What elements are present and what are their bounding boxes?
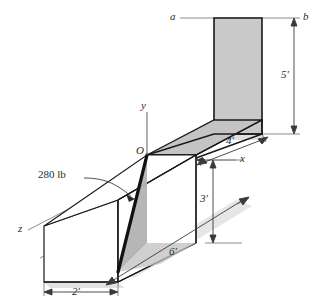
upright-panel [214,18,262,134]
dim-2ft-arrow-right [110,289,118,295]
label-dim-6ft: 6' [169,245,177,257]
label-axis-x: x [240,152,245,164]
dim-5ft-arrow-top [291,18,297,26]
label-dim-2ft: 2' [72,285,80,297]
label-force-280lb: 280 lb [38,168,66,180]
label-dim-5ft: 5' [281,68,289,80]
label-axis-y: y [141,99,146,111]
upright-panel-face [214,18,262,134]
dim-5ft-arrow-bottom [291,126,297,134]
dim-3ft-arrow-top [210,160,216,168]
label-dim-3ft: 3' [200,192,208,204]
figure-canvas: a b O y x z 280 lb 5' 4' 3' 6' 2' [0,0,321,307]
dim-3ft-arrow-bottom [210,235,216,243]
diagram-svg [0,0,321,307]
label-origin: O [136,144,144,156]
label-point-a: a [170,10,176,22]
label-axis-z: z [18,222,22,234]
label-dim-4ft: 4' [226,134,234,146]
dim-2ft-arrow-left [44,289,52,295]
label-point-b: b [303,10,309,22]
